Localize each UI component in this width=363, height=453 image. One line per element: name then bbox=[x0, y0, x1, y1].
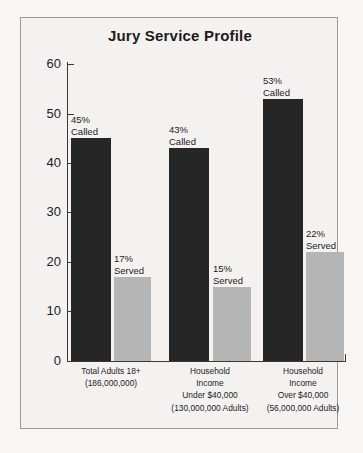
x-axis-label-line: Over $40,000 bbox=[243, 389, 363, 401]
chart-frame: Jury Service Profile 60 50 40 30 20 10 0 bbox=[20, 17, 338, 429]
y-tick-label-40: 40 bbox=[21, 155, 61, 170]
bar-called-total-adults[interactable] bbox=[71, 138, 111, 361]
bar-label-served-income-under-40k: 15% Served bbox=[213, 263, 243, 286]
bar-label-pct: 22% bbox=[306, 228, 336, 240]
y-tick-label-10: 10 bbox=[21, 303, 61, 318]
bar-called-income-over-40k[interactable] bbox=[263, 99, 303, 361]
bar-called-income-under-40k[interactable] bbox=[169, 148, 209, 361]
x-axis-label-line: Income bbox=[243, 377, 363, 389]
bar-label-called-total-adults: 45% Called bbox=[71, 114, 98, 137]
bar-label-called-income-over-40k: 53% Called bbox=[263, 75, 290, 98]
y-tick-label-50: 50 bbox=[21, 106, 61, 121]
bar-label-pct: 43% bbox=[169, 124, 196, 136]
x-axis-label-line: (56,000,000 Adults) bbox=[243, 402, 363, 414]
bar-label-called-income-under-40k: 43% Called bbox=[169, 124, 196, 147]
bar-served-total-adults[interactable] bbox=[114, 277, 151, 361]
bar-label-series: Served bbox=[114, 265, 144, 277]
y-tick-label-20: 20 bbox=[21, 254, 61, 269]
bar-label-pct: 17% bbox=[114, 253, 144, 265]
x-axis-label-income-over-40k: Household Income Over $40,000 (56,000,00… bbox=[243, 365, 363, 414]
bar-served-income-over-40k[interactable] bbox=[306, 252, 344, 361]
x-axis-label-line: Household bbox=[243, 365, 363, 377]
bar-label-series: Called bbox=[263, 87, 290, 99]
x-axis-line bbox=[67, 361, 346, 362]
bar-label-series: Served bbox=[306, 240, 336, 252]
y-tick-label-30: 30 bbox=[21, 204, 61, 219]
x-axis-end-tick bbox=[345, 354, 346, 362]
bar-label-pct: 53% bbox=[263, 75, 290, 87]
bar-label-served-income-over-40k: 22% Served bbox=[306, 228, 336, 251]
bar-served-income-under-40k[interactable] bbox=[213, 287, 251, 361]
y-tick-mark-60 bbox=[68, 64, 74, 65]
bar-label-series: Called bbox=[169, 136, 196, 148]
scanned-page: Jury Service Profile 60 50 40 30 20 10 0 bbox=[0, 0, 363, 453]
bar-label-series: Called bbox=[71, 126, 98, 138]
y-tick-label-60: 60 bbox=[21, 56, 61, 71]
bar-label-series: Served bbox=[213, 275, 243, 287]
bar-label-pct: 45% bbox=[71, 114, 98, 126]
plot-area: 60 50 40 30 20 10 0 45% Called 17% bbox=[21, 18, 339, 430]
bar-label-pct: 15% bbox=[213, 263, 243, 275]
bar-label-served-total-adults: 17% Served bbox=[114, 253, 144, 276]
